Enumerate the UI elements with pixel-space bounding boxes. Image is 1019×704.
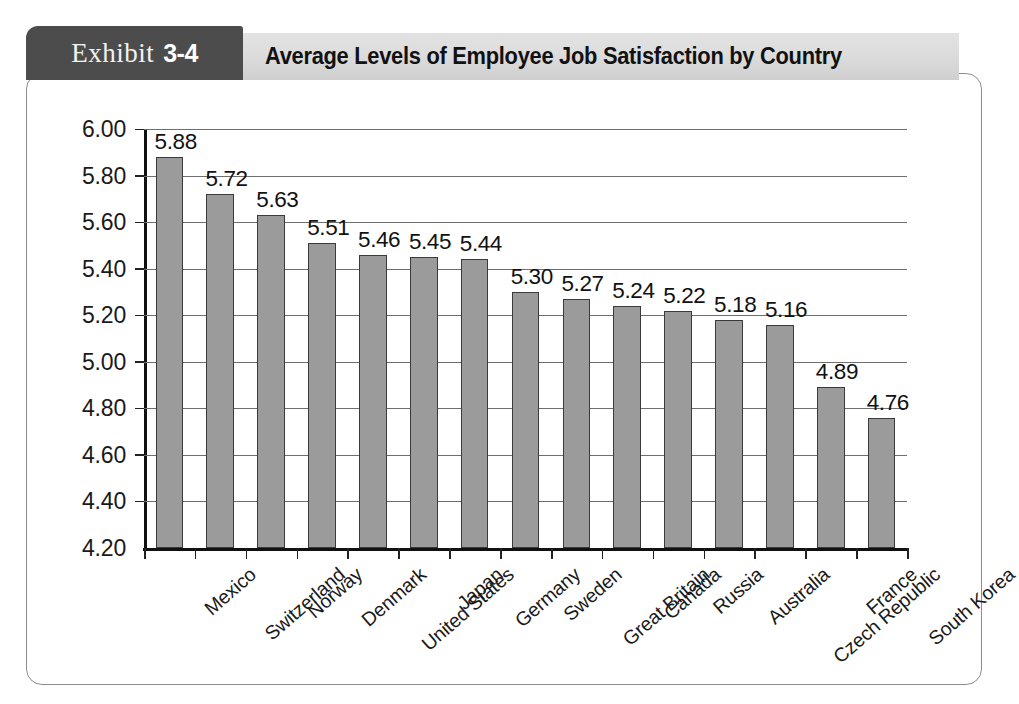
bar-value-label: 5.46 [358, 227, 400, 253]
y-axis-label: 4.80 [82, 395, 126, 422]
y-axis-tick [135, 268, 144, 270]
bar-value-label: 5.45 [409, 229, 451, 255]
bar-value-label: 5.44 [460, 231, 502, 257]
y-axis-label: 4.40 [82, 488, 126, 515]
x-axis-tick [653, 548, 655, 559]
bar [410, 257, 438, 548]
bar-value-label: 5.51 [307, 215, 349, 241]
x-axis-tick [754, 548, 756, 559]
x-axis-tick [398, 548, 400, 559]
bar-chart: 6.005.805.605.405.205.004.804.604.404.20… [27, 74, 983, 686]
x-axis-tick [195, 548, 197, 559]
exhibit-tab: Exhibit 3-4 [26, 26, 243, 80]
x-axis-tick [704, 548, 706, 559]
x-axis-tick [856, 548, 858, 559]
bar-value-label: 4.76 [867, 390, 909, 416]
x-axis-label: Australia [763, 563, 834, 629]
bar [206, 194, 234, 548]
bar [613, 306, 641, 548]
bar-value-label: 5.63 [256, 187, 298, 213]
bar [257, 215, 285, 548]
bar [563, 299, 591, 548]
bar [308, 243, 336, 548]
bar-value-label: 5.88 [155, 129, 197, 155]
bar [156, 157, 184, 548]
bar-value-label: 5.27 [562, 271, 604, 297]
y-axis-label: 5.40 [82, 255, 126, 282]
bar-value-label: 5.72 [205, 166, 247, 192]
x-axis-tick [500, 548, 502, 559]
x-axis-label: Denmark [357, 563, 431, 631]
bar [512, 292, 540, 548]
bar [359, 255, 387, 548]
y-axis-tick [135, 129, 144, 131]
bar [817, 387, 845, 548]
x-axis-tick [144, 548, 146, 559]
plot-area: 6.005.805.605.405.205.004.804.604.404.20… [144, 129, 907, 548]
x-axis-tick [449, 548, 451, 559]
y-axis-tick [135, 408, 144, 410]
bar [715, 320, 743, 548]
bar-value-label: 5.16 [765, 297, 807, 323]
page-title: Average Levels of Employee Job Satisfact… [265, 43, 842, 70]
x-axis-tick [246, 548, 248, 559]
x-axis-line [143, 548, 908, 551]
bar [766, 325, 794, 548]
exhibit-number: 3-4 [163, 39, 198, 68]
bar-value-label: 4.89 [816, 359, 858, 385]
y-axis-tick [135, 501, 144, 503]
y-axis-tick [135, 222, 144, 224]
gridline [144, 176, 907, 177]
y-axis-label: 5.20 [82, 302, 126, 329]
bar-value-label: 5.30 [511, 264, 553, 290]
y-axis-label: 4.60 [82, 441, 126, 468]
bar [868, 418, 896, 548]
exhibit-label: Exhibit [71, 38, 154, 69]
x-axis-tick [347, 548, 349, 559]
y-axis-label: 4.20 [82, 535, 126, 562]
bar [461, 259, 489, 548]
y-axis-tick [135, 361, 144, 363]
y-axis-label: 5.00 [82, 348, 126, 375]
x-axis-tick [907, 548, 909, 559]
bar-value-label: 5.18 [714, 292, 756, 318]
y-axis-tick [135, 454, 144, 456]
x-axis-label: Mexico [200, 563, 261, 620]
y-axis-tick [135, 315, 144, 317]
y-axis-tick [135, 175, 144, 177]
gridline [144, 129, 907, 130]
x-axis-tick [551, 548, 553, 559]
y-axis-label: 6.00 [82, 116, 126, 143]
exhibit-card: 6.005.805.605.405.205.004.804.604.404.20… [26, 73, 982, 685]
y-axis-label: 5.80 [82, 162, 126, 189]
x-axis-tick [602, 548, 604, 559]
x-axis-tick [297, 548, 299, 559]
bar [664, 311, 692, 548]
title-band: Average Levels of Employee Job Satisfact… [243, 33, 959, 80]
x-axis-tick [805, 548, 807, 559]
y-axis-label: 5.60 [82, 209, 126, 236]
bar-value-label: 5.24 [612, 278, 654, 304]
bar-value-label: 5.22 [663, 283, 705, 309]
